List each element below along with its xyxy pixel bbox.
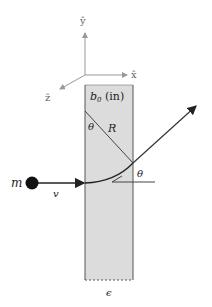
z-axis-label: ẑ <box>45 92 50 103</box>
particle-dot <box>26 177 39 190</box>
diagram-canvas: ŷ x̂ ẑ b0 (in) ϵ R θ θ m v <box>0 0 212 307</box>
z-axis <box>60 75 85 89</box>
particle: m v <box>11 176 59 199</box>
angle-label-exit: θ <box>137 168 143 179</box>
angle-label-top: θ <box>88 121 94 132</box>
outgoing-path <box>133 106 196 163</box>
radius-label: R <box>107 122 116 135</box>
x-axis-label: x̂ <box>131 69 137 80</box>
thickness-label: ϵ <box>106 287 112 298</box>
field-label: b0 (in) <box>90 90 124 104</box>
mass-label: m <box>11 176 22 190</box>
magnetic-slab: b0 (in) ϵ <box>85 85 133 298</box>
velocity-label: v <box>53 188 59 199</box>
y-axis-label: ŷ <box>79 15 86 26</box>
